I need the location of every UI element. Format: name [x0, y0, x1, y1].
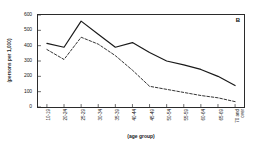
x-tick-label: 70 andover [236, 109, 246, 123]
x-tick-label: 10-19 [46, 109, 51, 121]
x-tick-label: 40-44 [132, 109, 137, 121]
x-tick-label: 30-34 [98, 109, 103, 121]
y-tick-label: 600 [24, 11, 32, 17]
y-tick-label: 400 [24, 42, 32, 48]
series-layer [38, 15, 235, 107]
y-tick-label: 0 [29, 103, 32, 109]
panel-label: B [236, 17, 240, 23]
x-tick-label: 55-59 [184, 109, 189, 121]
x-axis-tick-labels: 10-1920-2425-2930-3435-3940-4445-4950-54… [37, 109, 245, 133]
y-tick-label: 100 [24, 88, 32, 94]
data-series-dashed [47, 37, 235, 101]
x-tick-label: 60-64 [201, 109, 206, 121]
x-tick-label: 35-39 [115, 109, 120, 121]
y-tick-label: 300 [24, 57, 32, 63]
x-tick-label: 45-49 [150, 109, 155, 121]
x-tick-label: 25-29 [81, 109, 86, 121]
y-tick-label: 500 [24, 26, 32, 32]
data-series-solid [47, 21, 235, 85]
x-axis-title: (age group) [37, 133, 245, 139]
x-tick-label: 65-69 [219, 109, 224, 121]
y-axis-title: (persons per 1,000) [7, 38, 12, 82]
plot-svg [38, 15, 244, 107]
x-tick-label: 50-54 [167, 109, 172, 121]
chart-figure: (persons per 1,000) 0100200300400500600 … [0, 0, 253, 145]
plot-area: B [37, 14, 245, 108]
y-tick-label: 200 [24, 72, 32, 78]
x-tick-label: 20-24 [63, 109, 68, 121]
y-axis-tick-labels: 0100200300400500600 [14, 12, 34, 108]
